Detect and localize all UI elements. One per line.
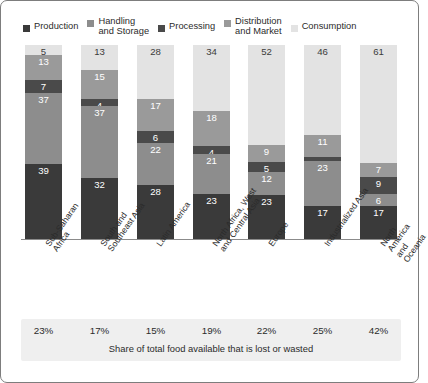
bar-segment-value: 7 (360, 164, 397, 175)
bar-segment-value: 32 (81, 179, 118, 190)
bar-segment: 4 (193, 146, 230, 154)
footer-percent-row: 23%17%15%19%22%25%42% (21, 325, 401, 339)
bar-segment: 5 (25, 45, 62, 55)
bar-segment-value: 6 (137, 132, 174, 143)
footer-percent: 15% (129, 325, 182, 336)
bar-segment-value: 46 (304, 46, 341, 57)
legend-item-handling-and-storage[interactable]: Handling and Storage (87, 16, 149, 36)
bar-segment-value: 15 (81, 71, 118, 82)
bar-segment-value: 9 (248, 146, 285, 157)
bar-segment: 22 (137, 143, 174, 185)
bar-segment: 21 (193, 154, 230, 195)
bar-segment: 52 (248, 45, 285, 145)
bar-segment: 4 (81, 99, 118, 107)
bar-segment-value: 17 (360, 207, 397, 218)
bar-segment-value: 17 (137, 100, 174, 111)
footer-percent: 19% (185, 325, 238, 336)
bar-segment: 15 (81, 70, 118, 99)
bar-segment-value: 23 (304, 162, 341, 173)
footer-percent: 23% (17, 325, 70, 336)
legend-swatch-icon (224, 20, 231, 27)
legend-item-processing[interactable]: Processing (158, 21, 215, 32)
bar-segment: 9 (248, 145, 285, 162)
chart-legend: ProductionHandling and StorageProcessing… (23, 15, 401, 37)
bar-segment: 13 (81, 45, 118, 70)
bar-segment-value: 13 (25, 56, 62, 67)
footer-percent: 42% (352, 325, 405, 336)
bar-segment-value: 21 (193, 155, 230, 166)
bar-column[interactable]: 461122317 (304, 45, 341, 239)
bar-column[interactable]: 6179617 (360, 45, 397, 239)
bar-segment: 18 (193, 111, 230, 146)
bar-segment: 13 (25, 55, 62, 80)
bar-segment-value: 37 (81, 107, 118, 118)
bar-segment: 5 (248, 162, 285, 172)
legend-swatch-icon (23, 25, 30, 32)
footer-percent: 22% (240, 325, 293, 336)
legend-swatch-icon (291, 25, 298, 32)
legend-item-consumption[interactable]: Consumption (291, 21, 357, 32)
bar-segment-value: 18 (193, 112, 230, 123)
bar-segment-value: 23 (193, 195, 230, 206)
bar-segment: 34 (193, 45, 230, 111)
bar-segment-value: 22 (137, 144, 174, 155)
bar-column[interactable]: 51373739 (25, 45, 62, 239)
bar-segment-value: 13 (81, 46, 118, 57)
legend-item-distribution-and-market[interactable]: Distribution and Market (224, 16, 282, 36)
bar-segment-value: 52 (248, 46, 285, 57)
legend-swatch-icon (158, 25, 165, 32)
bar-segment: 37 (25, 93, 62, 164)
bar-segment: 17 (137, 99, 174, 132)
legend-label: Consumption (302, 21, 357, 31)
bar-segment: 28 (137, 45, 174, 99)
footer-percent: 17% (73, 325, 126, 336)
bar-segment-value: 7 (25, 81, 62, 92)
footer-panel: 23%17%15%19%22%25%42% Share of total foo… (21, 319, 401, 361)
bar-segment-value: 37 (25, 94, 62, 105)
bar-segment: 61 (360, 45, 397, 163)
legend-label: Distribution and Market (235, 16, 282, 36)
category-axis-labels: Sub-Saharan AfricaSouth and Southeast As… (25, 241, 397, 315)
legend-label: Processing (169, 21, 215, 31)
footer-percent: 25% (296, 325, 349, 336)
legend-label: Production (34, 21, 78, 31)
bar-segment-value: 34 (193, 46, 230, 57)
bar-column[interactable]: 341842123 (193, 45, 230, 239)
bar-segment: 7 (25, 80, 62, 93)
bar-segment-value: 12 (248, 173, 285, 184)
footer-caption: Share of total food available that is lo… (21, 343, 401, 354)
bar-segment: 23 (304, 161, 341, 206)
bar-segment-value: 28 (137, 186, 174, 197)
bar-segment-value: 61 (360, 46, 397, 57)
bar-segment-value: 39 (25, 165, 62, 176)
bar-segment: 11 (304, 135, 341, 157)
bar-column[interactable]: 131543732 (81, 45, 118, 239)
legend-label: Handling and Storage (98, 16, 149, 36)
bar-segment-value: 28 (137, 46, 174, 57)
bar-segment-value: 17 (304, 207, 341, 218)
legend-swatch-icon (87, 20, 94, 27)
bar-segment: 46 (304, 45, 341, 135)
bar-segment: 37 (81, 106, 118, 177)
legend-item-production[interactable]: Production (23, 21, 78, 32)
bar-segment-value: 11 (304, 136, 341, 147)
bar-segment: 6 (137, 131, 174, 143)
bar-segment: 7 (360, 163, 397, 177)
